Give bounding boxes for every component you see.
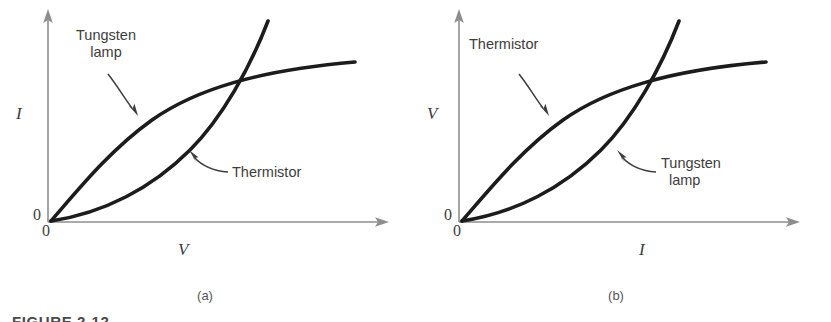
panel-a-callout-thermistor: Thermistor bbox=[232, 164, 301, 180]
panel-b-y-axis-label: V bbox=[427, 104, 437, 123]
x-axis bbox=[459, 217, 800, 227]
panel-a-callout-tungsten-lamp-line1: Tungsten bbox=[54, 27, 158, 43]
callout-arrow-thermistor bbox=[189, 150, 228, 172]
x-axis bbox=[48, 217, 389, 227]
panel-a-origin-x-zero: 0 bbox=[42, 222, 50, 240]
panel-b-origin-y-zero: 0 bbox=[444, 206, 452, 224]
curve-thermistor bbox=[462, 62, 766, 221]
curve-tungsten-lamp bbox=[51, 62, 355, 221]
panel-b-callout-tungsten-lamp-line2: lamp bbox=[669, 172, 700, 188]
panel-b-origin-x-zero: 0 bbox=[453, 222, 461, 240]
panel-a-callout-tungsten-lamp-line2: lamp bbox=[54, 44, 158, 60]
panel-a-origin-y-zero: 0 bbox=[33, 206, 41, 224]
callout-arrow-thermistor bbox=[519, 74, 549, 116]
y-axis bbox=[454, 9, 464, 222]
chart-panel-a: I V 0 0 Tungsten lamp Thermistor (a) bbox=[0, 0, 415, 322]
panel-a-x-axis-label: V bbox=[178, 240, 188, 259]
figure-number-label: FIGURE 2-12 bbox=[12, 313, 109, 322]
figure-root: I V 0 0 Tungsten lamp Thermistor (a) bbox=[0, 0, 831, 322]
chart-panel-b: V I 0 0 Thermistor Tungsten lamp (b) bbox=[411, 0, 826, 322]
panel-b-x-axis-label: I bbox=[639, 240, 645, 259]
callout-arrow-tungsten-lamp bbox=[108, 74, 138, 116]
panel-b-callout-thermistor: Thermistor bbox=[469, 36, 538, 52]
panel-a-y-axis-label: I bbox=[16, 104, 22, 123]
panel-b-caption: (b) bbox=[586, 288, 646, 303]
callout-arrow-tungsten-lamp bbox=[617, 150, 656, 172]
panel-b-callout-tungsten-lamp-line1: Tungsten bbox=[661, 155, 721, 171]
y-axis bbox=[43, 9, 53, 222]
panel-a-caption: (a) bbox=[175, 288, 235, 303]
